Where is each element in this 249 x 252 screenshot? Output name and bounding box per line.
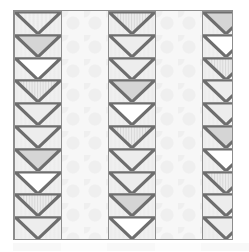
tile-cell[interactable] [203, 126, 233, 149]
tile-cell[interactable] [109, 149, 155, 172]
inverted-triangle-icon [109, 80, 155, 102]
undertone-segment [61, 243, 107, 251]
inverted-triangle-icon [203, 149, 233, 171]
tile-cell[interactable] [203, 217, 233, 239]
tile-cell[interactable] [109, 172, 155, 195]
tile-cell[interactable] [203, 103, 233, 126]
tile-cell[interactable] [109, 103, 155, 126]
tile-cell[interactable] [109, 11, 155, 35]
inverted-triangle-icon [203, 80, 233, 102]
tile-cell[interactable] [15, 149, 61, 172]
tile-cell[interactable] [15, 126, 61, 149]
inverted-triangle-icon [109, 217, 155, 239]
tile-cell[interactable] [203, 11, 233, 35]
inverted-triangle-icon [109, 35, 155, 57]
tile-cell[interactable] [203, 172, 233, 195]
right-gap-column [156, 11, 202, 239]
inverted-triangle-icon [203, 217, 233, 239]
tile-cell[interactable] [109, 58, 155, 81]
undertone-segment [155, 243, 201, 251]
tile-cell[interactable] [203, 58, 233, 81]
inverted-triangle-icon [15, 194, 61, 216]
tile-cell[interactable] [109, 194, 155, 217]
tile-cell[interactable] [203, 35, 233, 58]
inverted-triangle-icon [109, 12, 155, 34]
tile-cell[interactable] [15, 35, 61, 58]
inverted-triangle-icon [203, 103, 233, 125]
inverted-triangle-icon [15, 80, 61, 102]
inverted-triangle-icon [15, 149, 61, 171]
inverted-triangle-icon [15, 126, 61, 148]
inverted-triangle-icon [109, 103, 155, 125]
inverted-triangle-icon [15, 35, 61, 57]
inverted-triangle-icon [109, 194, 155, 216]
figure-undertone-strip [13, 243, 233, 251]
tile-cell[interactable] [15, 11, 61, 35]
inverted-triangle-icon [15, 58, 61, 80]
middle-tile-column [108, 11, 156, 239]
inverted-triangle-icon [109, 149, 155, 171]
tile-cell[interactable] [15, 80, 61, 103]
inverted-triangle-icon [203, 12, 233, 34]
left-gap-column [62, 11, 108, 239]
inverted-triangle-icon [15, 103, 61, 125]
inverted-triangle-icon [109, 172, 155, 194]
inverted-triangle-icon [15, 12, 61, 34]
tile-cell[interactable] [15, 172, 61, 195]
tile-cell[interactable] [203, 194, 233, 217]
right-tile-column [202, 11, 233, 239]
tile-cell[interactable] [15, 217, 61, 239]
undertone-segment [201, 243, 246, 251]
tiling-figure [13, 10, 233, 240]
left-tile-column [14, 11, 62, 239]
tile-cell[interactable] [109, 35, 155, 58]
tile-cell[interactable] [109, 80, 155, 103]
inverted-triangle-icon [203, 194, 233, 216]
inverted-triangle-icon [203, 172, 233, 194]
tile-cell[interactable] [15, 58, 61, 81]
inverted-triangle-icon [203, 58, 233, 80]
undertone-segment [107, 243, 155, 251]
tile-cell[interactable] [109, 126, 155, 149]
tile-cell[interactable] [203, 80, 233, 103]
tile-cell[interactable] [109, 217, 155, 239]
tile-cell[interactable] [15, 103, 61, 126]
inverted-triangle-icon [109, 58, 155, 80]
undertone-segment [13, 243, 61, 251]
tile-cell[interactable] [203, 149, 233, 172]
inverted-triangle-icon [203, 126, 233, 148]
inverted-triangle-icon [15, 217, 61, 239]
inverted-triangle-icon [109, 126, 155, 148]
inverted-triangle-icon [203, 35, 233, 57]
inverted-triangle-icon [15, 172, 61, 194]
tile-cell[interactable] [15, 194, 61, 217]
